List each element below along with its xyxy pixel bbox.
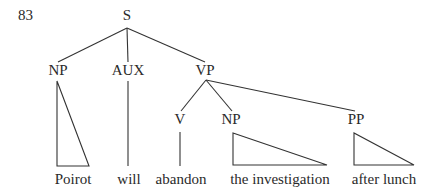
node-np-object: NP <box>221 111 240 127</box>
np-object-triangle <box>233 133 327 165</box>
node-vp: VP <box>195 62 214 78</box>
pp-triangle <box>354 133 414 165</box>
node-aux: AUX <box>112 62 145 78</box>
leaf-the-investigation: the investigation <box>230 171 330 187</box>
example-number: 83 <box>18 7 33 23</box>
leaf-poirot: Poirot <box>55 171 93 187</box>
leaf-after-lunch: after lunch <box>352 171 417 187</box>
node-v: V <box>175 111 186 127</box>
node-s: S <box>123 7 131 23</box>
node-pp: PP <box>348 111 365 127</box>
syntax-tree: 83 S NP AUX VP V NP PP Poirot will aband… <box>0 0 437 195</box>
leaf-will: will <box>117 171 140 187</box>
np-subject-triangle <box>57 81 89 166</box>
edges-s <box>58 28 205 62</box>
edges-vp <box>181 80 355 111</box>
node-np-subject: NP <box>48 62 67 78</box>
leaf-abandon: abandon <box>156 171 207 187</box>
